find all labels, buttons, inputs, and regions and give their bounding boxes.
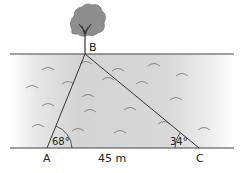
angle-label-A: 68° [52, 136, 70, 147]
point-label-C: C [196, 152, 204, 165]
distance-label-AC: 45 m [98, 152, 126, 165]
point-label-B: B [89, 41, 97, 54]
tree-icon [70, 4, 105, 54]
point-label-A: A [43, 152, 51, 165]
river-water [10, 54, 234, 148]
angle-label-C: 34° [170, 136, 188, 147]
triangle-river-diagram: B A C 68° 34° 45 m [0, 0, 247, 173]
